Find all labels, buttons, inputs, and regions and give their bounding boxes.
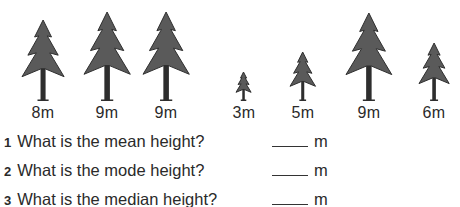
question-text: What is the mode height? — [17, 161, 204, 179]
question-text: What is the median height? — [17, 190, 217, 207]
tree-icon — [236, 72, 251, 101]
answer-blank[interactable] — [272, 146, 308, 147]
tree-icon — [419, 43, 449, 101]
answer-blank[interactable] — [272, 204, 308, 205]
question-1: 1What is the mean height? — [4, 132, 204, 151]
tree-icon — [346, 13, 392, 101]
unit-label: m — [314, 161, 328, 179]
tree-height-label: 9m — [146, 104, 186, 122]
unit-label: m — [314, 190, 328, 207]
question-text: What is the mean height? — [17, 132, 204, 150]
answer-3[interactable]: m — [272, 190, 328, 207]
tree-icon — [143, 12, 189, 101]
question-2: 2What is the mode height? — [4, 161, 204, 180]
question-number: 1 — [4, 135, 11, 150]
tree-height-label: 5m — [283, 104, 323, 122]
tree-height-label: 8m — [23, 104, 63, 122]
answer-2[interactable]: m — [272, 161, 328, 180]
tree-height-label: 3m — [224, 104, 264, 122]
question-3: 3What is the median height? — [4, 190, 217, 207]
tree-icon — [290, 52, 315, 101]
tree-icon — [84, 12, 130, 101]
answer-1[interactable]: m — [272, 132, 328, 151]
tree-height-label: 9m — [349, 104, 389, 122]
unit-label: m — [314, 132, 328, 150]
question-number: 3 — [4, 193, 11, 207]
question-number: 2 — [4, 164, 11, 179]
answer-blank[interactable] — [272, 175, 308, 176]
tree-height-label: 6m — [414, 104, 454, 122]
tree-height-label: 9m — [87, 104, 127, 122]
tree-icon — [22, 20, 64, 101]
